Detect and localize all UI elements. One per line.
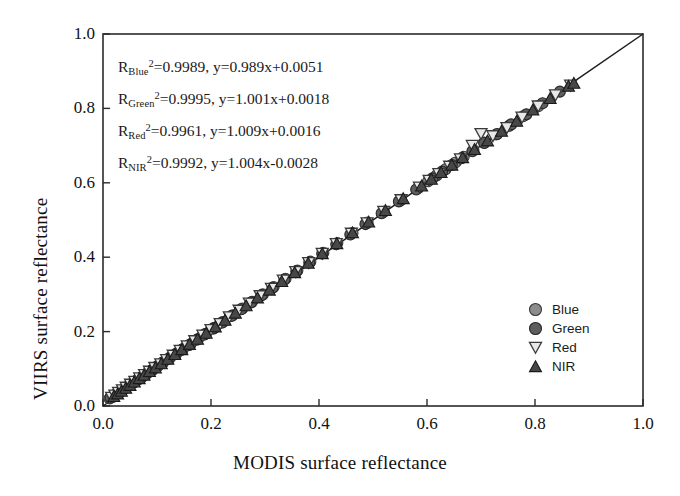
x-tick-label: 1.0 — [632, 414, 653, 434]
legend-label: NIR — [552, 360, 575, 374]
y-tick-label: 0.2 — [51, 322, 95, 342]
y-tick-label: 0.8 — [51, 98, 95, 118]
legend-label: Red — [552, 341, 577, 355]
r-symbol: R — [118, 154, 128, 171]
y-axis-title: VIIRS surface reflectance — [30, 198, 52, 400]
y-tick-label: 0.4 — [51, 247, 95, 267]
legend-item-nir: NIR — [528, 357, 590, 376]
legend-item-blue: Blue — [528, 300, 590, 319]
legend-marker-circle — [528, 302, 543, 317]
r-symbol: R — [118, 58, 128, 75]
regression-annotation-green: RGreen2=0.9995, y=1.001x+0.0018 — [118, 80, 329, 112]
x-tick-label: 0.2 — [200, 414, 221, 434]
band-subscript: Green — [128, 98, 154, 109]
annotation-values: =0.9995, y=1.001x+0.0018 — [160, 90, 330, 107]
regression-annotations: RBlue2=0.9989, y=0.989x+0.0051RGreen2=0.… — [118, 48, 329, 176]
annotation-values: =0.9989, y=0.989x+0.0051 — [154, 58, 324, 75]
legend-marker-triangle-up-filled — [528, 359, 543, 374]
legend: BlueGreenRedNIR — [528, 300, 590, 376]
legend-marker-circle — [528, 321, 543, 336]
regression-annotation-red: RRed2=0.9961, y=1.009x+0.0016 — [118, 112, 329, 144]
x-tick-label: 0.8 — [524, 414, 545, 434]
x-tick-label: 0.0 — [92, 414, 113, 434]
scatter-plot-figure: 0.00.20.40.60.81.0 0.00.20.40.60.81.0 MO… — [0, 0, 680, 496]
regression-annotation-nir: RNIR2=0.9992, y=1.004x-0.0028 — [118, 144, 329, 176]
legend-label: Blue — [552, 303, 579, 317]
band-subscript: NIR — [128, 162, 146, 173]
r-symbol: R — [118, 122, 128, 139]
y-tick-label: 1.0 — [51, 24, 95, 44]
x-axis-title: MODIS surface reflectance — [0, 452, 680, 474]
y-tick-label: 0.6 — [51, 173, 95, 193]
x-tick-label: 0.4 — [308, 414, 329, 434]
legend-item-red: Red — [528, 338, 590, 357]
y-tick-label: 0.0 — [51, 396, 95, 416]
legend-item-green: Green — [528, 319, 590, 338]
band-subscript: Red — [128, 130, 145, 141]
annotation-values: =0.9992, y=1.004x-0.0028 — [152, 154, 318, 171]
x-tick-label: 0.6 — [416, 414, 437, 434]
legend-marker-triangle-down-open — [528, 340, 543, 355]
regression-annotation-blue: RBlue2=0.9989, y=0.989x+0.0051 — [118, 48, 329, 80]
band-subscript: Blue — [128, 66, 148, 77]
annotation-values: =0.9961, y=1.009x+0.0016 — [151, 122, 321, 139]
legend-label: Green — [552, 322, 590, 336]
r-symbol: R — [118, 90, 128, 107]
